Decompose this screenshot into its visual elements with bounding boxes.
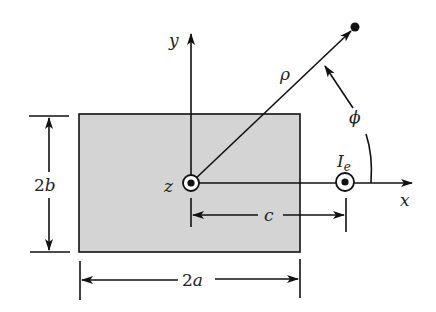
observation-point bbox=[351, 23, 360, 32]
phi-arrow bbox=[325, 66, 353, 108]
dim-2b-label: 2b bbox=[34, 175, 56, 195]
z-axis-label: z bbox=[163, 176, 174, 196]
origin-z-dot bbox=[187, 179, 194, 186]
current-ie-dot bbox=[341, 178, 348, 185]
x-axis-label: x bbox=[400, 190, 410, 210]
phi-label: ϕ bbox=[349, 107, 361, 127]
y-axis-label: y bbox=[168, 30, 179, 50]
current-ie-label: Ie bbox=[336, 151, 351, 174]
dim-c-label: c bbox=[264, 205, 274, 225]
rho-label: ρ bbox=[279, 64, 290, 84]
dim-2a-label: 2a bbox=[182, 270, 203, 290]
phi-arc bbox=[366, 134, 371, 183]
diagram-canvas: y x z ρ ϕ Ie 2b 2a c bbox=[0, 0, 436, 312]
